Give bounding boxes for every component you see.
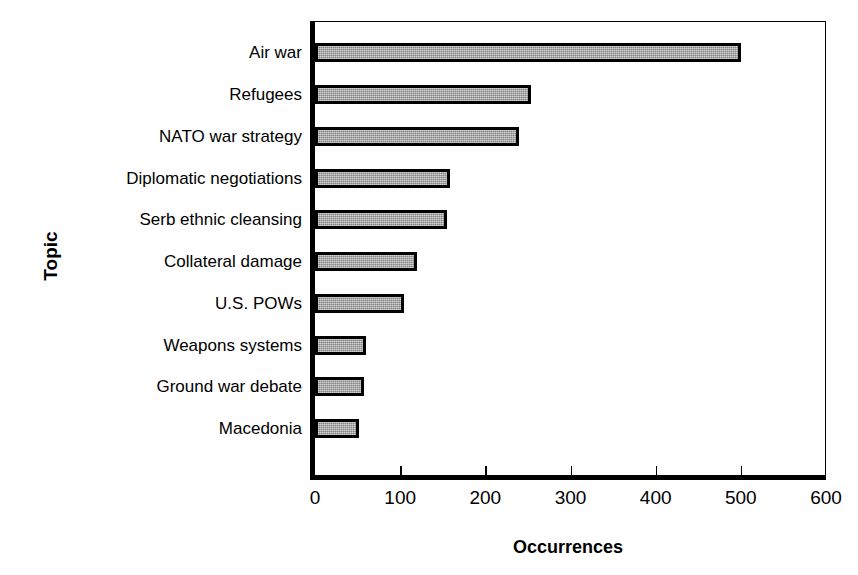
x-axis-tick (485, 466, 487, 477)
y-axis-tick-labels: Air warRefugeesNATO war strategyDiplomat… (40, 21, 302, 480)
y-axis-tick-label: Diplomatic negotiations (40, 169, 302, 188)
y-axis-tick-label: Macedonia (40, 419, 302, 438)
x-axis-tick-label: 0 (310, 487, 321, 509)
x-axis-tick-label: 400 (640, 487, 672, 509)
plot-area (315, 22, 826, 477)
x-axis-tick (571, 466, 573, 477)
bar (315, 85, 531, 104)
x-axis-tick-label: 600 (810, 487, 842, 509)
x-axis-title: Occurrences (310, 537, 826, 558)
x-axis-tick (400, 466, 402, 477)
x-axis-tick-label: 300 (555, 487, 587, 509)
x-axis-tick (656, 466, 658, 477)
y-axis-tick-label: Weapons systems (40, 336, 302, 355)
x-axis-tick (741, 466, 743, 477)
x-axis-tick-label: 200 (469, 487, 501, 509)
bar (315, 336, 366, 355)
y-axis-tick-label: Ground war debate (40, 377, 302, 396)
y-axis-tick-label: NATO war strategy (40, 127, 302, 146)
bar (315, 252, 417, 271)
y-axis-tick-label: Collateral damage (40, 252, 302, 271)
y-axis-tick-label: Refugees (40, 85, 302, 104)
x-axis-tick-labels: 0100200300400500600 (0, 487, 858, 513)
bar (315, 43, 741, 62)
bar-chart: Topic Air warRefugeesNATO war strategyDi… (0, 0, 858, 575)
bar (315, 169, 450, 188)
bar (315, 419, 359, 438)
y-axis-tick-label: Air war (40, 43, 302, 62)
y-axis-tick-label: U.S. POWs (40, 294, 302, 313)
x-axis-tick-label: 500 (725, 487, 757, 509)
x-axis-tick-label: 100 (384, 487, 416, 509)
bar (315, 210, 447, 229)
y-axis-tick-label: Serb ethnic cleansing (40, 210, 302, 229)
bar (315, 294, 404, 313)
bar (315, 127, 519, 146)
bar (315, 377, 364, 396)
